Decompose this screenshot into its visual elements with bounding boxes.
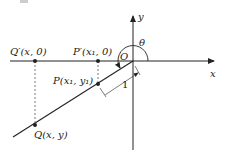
y-axis-label: y: [137, 11, 144, 22]
coordinate-diagram: y x θ O Q′(x, 0) P′(x₁, 0) P(x₁, y₁) Q(x…: [0, 0, 226, 162]
point-q: [33, 123, 37, 127]
point-q-prime: [33, 59, 37, 63]
q-prime-label: Q′(x, 0): [10, 46, 47, 57]
theta-label: θ: [139, 37, 145, 48]
unit-length-label: 1: [122, 79, 128, 90]
x-axis-label: x: [210, 68, 216, 79]
p-prime-label: P′(x₁, 0): [72, 46, 112, 57]
point-p-prime: [96, 59, 100, 63]
q-label: Q(x, y): [34, 129, 68, 140]
ray-line: [13, 61, 133, 137]
cropped-caption-fragment: [20, 0, 28, 3]
p-label: P(x₁, y₁): [52, 75, 93, 86]
origin-label: O: [120, 51, 128, 62]
point-p: [96, 82, 100, 86]
unit-dim-tick-a: [100, 88, 106, 97]
